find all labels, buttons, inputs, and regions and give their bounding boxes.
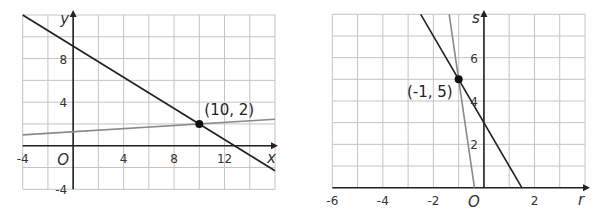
- origin-label: O: [468, 193, 480, 211]
- graph-xy: -4481284-4 x y O (10, 2): [17, 10, 278, 197]
- r-axis-label: r: [578, 191, 585, 209]
- intersection-label: (10, 2): [204, 101, 254, 119]
- x-tick-label: -4: [17, 152, 29, 166]
- graph-rs: -6-4-22642 r s O (-1, 5): [326, 9, 590, 211]
- origin-label: O: [57, 151, 69, 169]
- y-tick-label: 4: [60, 96, 68, 110]
- tick-labels: -6-4-22642: [326, 52, 538, 208]
- x-tick-label: 12: [217, 152, 232, 166]
- vertical-axis-arrow-icon: [480, 10, 487, 17]
- y-tick-label: 6: [470, 52, 478, 66]
- x-tick-label: -4: [377, 194, 389, 208]
- x-tick-label: -2: [427, 194, 439, 208]
- y-tick-label: 2: [470, 138, 478, 152]
- intersection-label: (-1, 5): [407, 83, 453, 101]
- y-tick-label: 4: [470, 95, 478, 109]
- x-axis-label: x: [266, 149, 276, 167]
- intersection-point: [455, 75, 463, 83]
- grid: [332, 14, 585, 187]
- s-axis-label: s: [472, 9, 480, 27]
- x-tick-label: 2: [531, 194, 539, 208]
- x-tick-label: 8: [170, 152, 178, 166]
- chart-canvas: -4481284-4 x y O (10, 2) -6-4-22642 r s …: [0, 0, 607, 214]
- x-tick-label: 4: [120, 152, 128, 166]
- intersection-point: [195, 120, 203, 128]
- y-tick-label: -4: [55, 183, 67, 197]
- y-axis-label: y: [59, 10, 70, 28]
- x-tick-label: -6: [326, 194, 338, 208]
- y-tick-label: 8: [60, 53, 68, 67]
- vertical-axis-arrow-icon: [70, 10, 77, 17]
